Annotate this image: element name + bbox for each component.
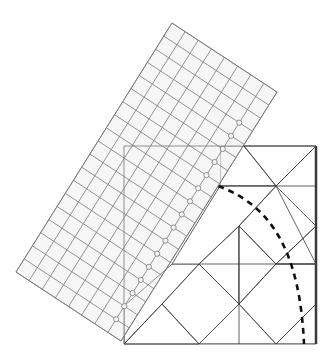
ruler-marker-circle: [122, 304, 127, 309]
dashed-cutting-curve: [218, 186, 304, 344]
patch-mid-dark: [239, 226, 276, 304]
figure-canvas: Rotated square-grid ruler laid over a pi…: [0, 0, 332, 362]
patch-mid-mottled: [199, 226, 239, 304]
ruler-marker-circle: [237, 120, 242, 125]
patch-light-diamond: [162, 264, 239, 344]
patch-bottom-mottled: [199, 304, 276, 344]
patch-right-mottled-triangle: [276, 146, 316, 264]
rotated-grid-ruler[interactable]: [16, 23, 277, 341]
ruler-marker-circle: [171, 225, 176, 230]
ruler-marker-circle: [138, 277, 143, 282]
ruler-marker-circle: [146, 264, 151, 269]
ruler-marker-circle: [220, 146, 225, 151]
ruler-marker-circle: [228, 133, 233, 138]
ruler-marker-circle: [155, 251, 160, 256]
patch-bottom-right-mottled: [276, 304, 316, 344]
quilt-ruler-diagram: [0, 0, 332, 362]
ruler-marker-circle: [130, 290, 135, 295]
patch-top-light-triangle: [244, 146, 316, 186]
ruler-marker-circle: [113, 317, 118, 322]
ruler-marker-circle: [179, 212, 184, 217]
ruler-marker-circle: [163, 238, 168, 243]
ruler-marker-circle: [196, 186, 201, 191]
ruler-marker-circle: [187, 199, 192, 204]
ruler-marker-circle: [204, 173, 209, 178]
patch-dark-center-square: [239, 186, 316, 264]
ruler-marker-circle: [212, 159, 217, 164]
